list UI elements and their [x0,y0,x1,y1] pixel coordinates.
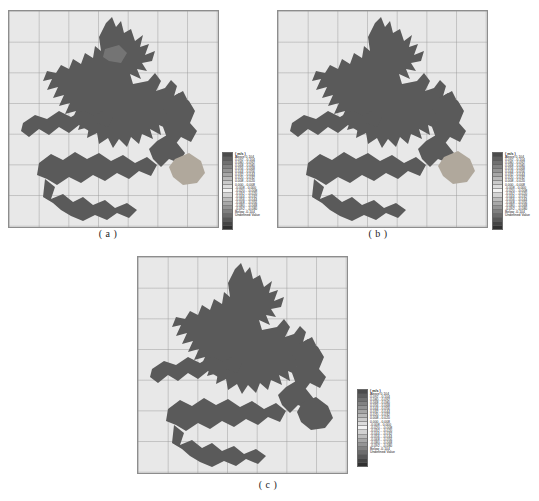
legend-undefined-row: Undefined Value [235,214,260,217]
panel-caption-b: ( b ) [348,228,408,239]
legend-c: ( m/s ) Above 0.104 0.092 - 0.104 0.080 … [357,389,395,467]
legend-labels-b: ( m/s ) Above 0.104 0.092 - 0.104 0.080 … [505,152,530,217]
legend-swatch [223,226,232,229]
legend-undefined-row: Undefined Value [505,214,530,217]
map-frame-a [8,10,219,228]
legend-swatch [493,226,502,229]
landmass-shape-b [278,11,487,227]
landmass-shape-c [138,257,347,473]
map-frame-b [277,10,488,228]
legend-colorbar-a [222,152,233,230]
landmass-shape-a [9,11,218,227]
legend-labels-a: ( m/s ) Above 0.104 0.092 - 0.104 0.080 … [235,152,260,217]
panel-caption-a: ( a ) [78,228,138,239]
legend-colorbar-c [357,389,368,467]
legend-undefined-row: Undefined Value [370,451,395,454]
legend-swatch [358,463,367,466]
legend-labels-c: ( m/s ) Above 0.104 0.092 - 0.104 0.080 … [370,389,395,454]
panel-caption-c: ( c ) [238,479,298,490]
map-frame-c [137,256,348,474]
legend-a: ( m/s ) Above 0.104 0.092 - 0.104 0.080 … [222,152,260,230]
legend-colorbar-b [492,152,503,230]
legend-b: ( m/s ) Above 0.104 0.092 - 0.104 0.080 … [492,152,530,230]
